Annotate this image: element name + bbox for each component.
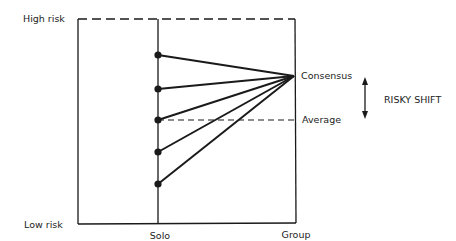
solo-label: Solo [150,230,170,241]
bottom-axis-line [78,223,296,224]
risky-shift-diagram: High risk Low risk Solo Group Consensus … [0,0,456,241]
solo-point-1 [154,51,161,58]
solo-point-3 [154,116,161,123]
low-risk-label: Low risk [24,219,63,230]
risky-shift-arrow-icon [362,77,368,119]
shift-line-1 [158,55,294,76]
group-line [295,19,296,223]
consensus-label: Consensus [301,70,352,81]
average-label: Average [302,114,341,125]
high-risk-label: High risk [23,13,65,24]
group-label: Group [282,229,311,240]
risky-shift-label: RISKY SHIFT [384,94,441,105]
shift-line-5 [158,76,294,184]
solo-point-5 [154,180,161,187]
solo-point-2 [154,85,161,92]
solo-point-4 [154,148,161,155]
